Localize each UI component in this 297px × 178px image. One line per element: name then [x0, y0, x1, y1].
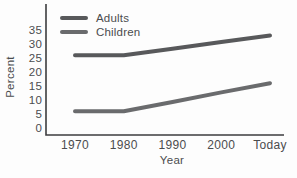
y-tick-label: 15 — [0, 79, 42, 93]
legend-label-children: Children — [96, 25, 140, 39]
x-tick-label: Today — [240, 138, 297, 152]
chart-legend: Adults Children — [60, 11, 140, 39]
y-tick-label: 0 — [0, 121, 42, 135]
y-tick-label: 35 — [0, 23, 42, 37]
y-tick-label: 5 — [0, 107, 42, 121]
x-axis-title: Year — [160, 154, 184, 166]
legend-item-adults: Adults — [60, 11, 140, 25]
y-tick-label: 25 — [0, 51, 42, 65]
legend-label-adults: Adults — [96, 11, 129, 25]
line-chart-figure: Adults Children Percent Year 05101520253… — [0, 0, 297, 178]
children-line-swatch — [60, 30, 88, 35]
children-line — [75, 83, 270, 111]
y-tick-label: 30 — [0, 37, 42, 51]
legend-item-children: Children — [60, 25, 140, 39]
y-tick-label: 20 — [0, 65, 42, 79]
adults-line-swatch — [60, 16, 88, 21]
y-tick-label: 10 — [0, 93, 42, 107]
